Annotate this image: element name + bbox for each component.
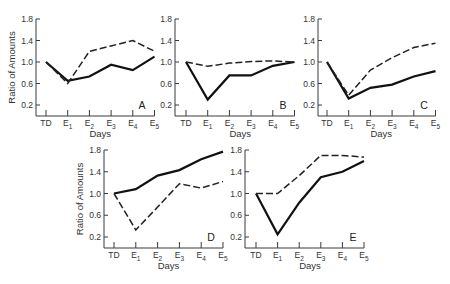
- panel-d-ytick-label: 1.0: [89, 189, 101, 199]
- panel-e-series-solid: [256, 161, 364, 234]
- panel-e-xtick-label: E5: [359, 250, 369, 262]
- panel-e-xtick-label: TD: [250, 250, 261, 260]
- panel-c-xtick-label: E5: [431, 118, 441, 130]
- panel-b-xtick-label: E4: [268, 118, 278, 130]
- panel-b-xtick-label: E5: [290, 118, 300, 130]
- panel-e-letter: E: [349, 231, 356, 243]
- panel-a-ytick-label: 1.4: [21, 36, 33, 46]
- panel-d-xtick-label: E4: [197, 250, 207, 262]
- panel-c-ytick-label: 0.6: [303, 79, 315, 89]
- panel-d-xtick-label: TD: [108, 250, 119, 260]
- panel-b-axes: [175, 19, 295, 116]
- panel-b-series-solid: [186, 62, 295, 100]
- panel-a-xlabel: Days: [89, 128, 111, 139]
- panel-b-xlabel: Days: [229, 128, 251, 139]
- panel-e-axes: [245, 150, 364, 248]
- panel-a-xtick-label: E1: [63, 118, 73, 130]
- panel-b-ytick-label: 1.4: [160, 36, 172, 46]
- panel-b-ytick-label: 0.2: [160, 100, 172, 110]
- panel-d-xtick-label: E1: [131, 250, 141, 262]
- chart-canvas: 0.20.61.01.41.8TDE1E2E3E4E5DaysRatio of …: [0, 0, 450, 284]
- panel-e-series-dashed: [256, 155, 364, 193]
- panel-e-xtick-label: E4: [338, 250, 348, 262]
- panel-b-ytick-label: 0.6: [160, 79, 172, 89]
- panel-c-letter: C: [420, 99, 428, 111]
- panel-c-ytick-label: 1.8: [303, 14, 315, 24]
- panel-c-series-solid: [327, 62, 436, 99]
- panel-b-xtick-label: E1: [203, 118, 213, 130]
- panel-a-ylabel: Ratio of Amounts: [6, 31, 17, 104]
- panel-b-ytick-label: 1.8: [160, 14, 172, 24]
- panel-b-ytick-label: 1.0: [160, 57, 172, 67]
- panel-d-ytick-label: 0.2: [89, 232, 101, 242]
- panel-d-ytick-label: 0.6: [89, 210, 101, 220]
- panel-d-ylabel: Ratio of Amounts: [74, 163, 85, 236]
- panel-c-xtick-label: E1: [344, 118, 354, 130]
- panel-d-series-dashed: [114, 182, 223, 230]
- panel-d-letter: D: [207, 231, 215, 243]
- panel-e-xtick-label: E1: [273, 250, 283, 262]
- panel-d-ytick-label: 1.4: [89, 167, 101, 177]
- panel-e-ytick-label: 0.6: [230, 210, 242, 220]
- panel-e-ytick-label: 0.2: [230, 232, 242, 242]
- panel-c-ytick-label: 0.2: [303, 100, 315, 110]
- panel-a-xtick-label: E4: [128, 118, 138, 130]
- panel-c-xtick-label: E4: [409, 118, 419, 130]
- panel-a-ytick-label: 1.0: [21, 57, 33, 67]
- panel-a-letter: A: [138, 99, 145, 111]
- panel-c-xtick-label: TD: [321, 118, 332, 128]
- panel-d-xlabel: Days: [158, 260, 180, 271]
- panel-a-ytick-label: 1.8: [21, 14, 33, 24]
- panel-a-ytick-label: 0.6: [21, 79, 33, 89]
- panel-c-xlabel: Days: [370, 128, 392, 139]
- panel-c-series-dashed: [327, 43, 436, 95]
- panel-c-axes: [318, 19, 436, 116]
- panel-c-ytick-label: 1.4: [303, 36, 315, 46]
- panel-e-ytick-label: 1.0: [230, 189, 242, 199]
- panel-b-letter: B: [279, 99, 286, 111]
- panel-a-xtick-label: E5: [150, 118, 160, 130]
- panel-a-ytick-label: 0.2: [21, 100, 33, 110]
- panel-d-xtick-label: E5: [218, 250, 228, 262]
- panel-a-xtick-label: TD: [40, 118, 51, 128]
- figure-panels: 0.20.61.01.41.8TDE1E2E3E4E5DaysRatio of …: [0, 0, 450, 284]
- panel-e-ytick-label: 1.4: [230, 167, 242, 177]
- panel-e-ytick-label: 1.8: [230, 145, 242, 155]
- panel-d-ytick-label: 1.8: [89, 145, 101, 155]
- panel-d-axes: [104, 150, 223, 248]
- panel-c-ytick-label: 1.0: [303, 57, 315, 67]
- panel-e-xlabel: Days: [299, 260, 321, 271]
- panel-b-xtick-label: TD: [180, 118, 191, 128]
